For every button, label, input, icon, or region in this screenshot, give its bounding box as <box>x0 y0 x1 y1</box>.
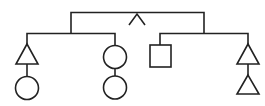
left-branch-connector <box>27 34 115 46</box>
triangle-icon <box>16 44 38 64</box>
right-branch-connector <box>160 34 248 46</box>
right-right-group <box>237 44 259 94</box>
left-right-group <box>104 46 127 100</box>
circle-icon <box>104 76 127 99</box>
circle-icon <box>104 46 127 69</box>
circle-icon <box>16 77 39 100</box>
left-left-group <box>16 44 39 100</box>
right-left-group <box>150 45 171 67</box>
caret-icon <box>129 14 145 25</box>
shape-tree-diagram <box>0 0 265 106</box>
triangle-icon <box>237 75 259 94</box>
square-icon <box>150 45 171 67</box>
triangle-icon <box>237 44 259 64</box>
